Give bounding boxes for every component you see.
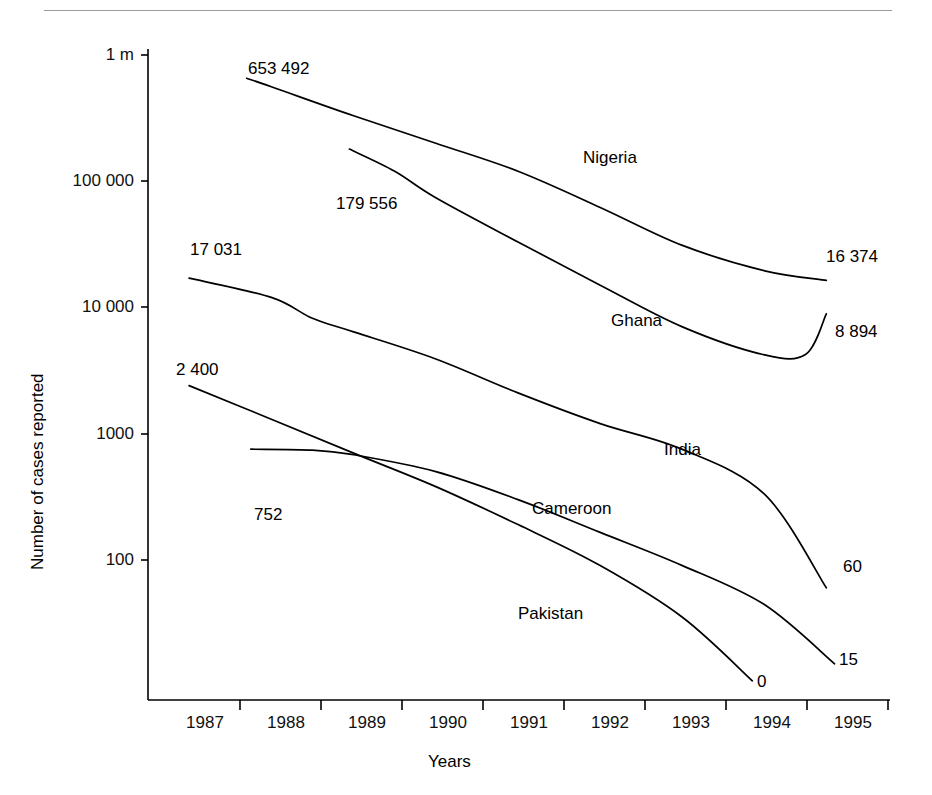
series-label-pakistan: Pakistan	[518, 604, 583, 624]
y-tick-label-10000: 10 000	[34, 297, 134, 316]
value-label-pakistan-start: 2 400	[176, 360, 219, 380]
value-label-pakistan-end: 0	[757, 672, 766, 692]
y-tick-label-100: 100	[34, 550, 134, 569]
series-line-pakistan	[189, 386, 752, 681]
y-tick-label-1000: 1000	[34, 424, 134, 443]
chart-page: 1 m 100 000 10 000 1000 100 Number of ca…	[0, 0, 932, 795]
x-tick-label-1992: 1992	[580, 713, 640, 732]
series-line-nigeria-path	[247, 78, 827, 280]
series-label-nigeria: Nigeria	[583, 148, 637, 168]
series-label-ghana: Ghana	[611, 311, 662, 331]
series-line-ghana	[349, 149, 826, 359]
value-label-cameroon-start: 752	[254, 505, 282, 525]
line-chart: 1 m 100 000 10 000 1000 100 Number of ca…	[0, 0, 932, 795]
value-label-india-end: 60	[843, 557, 862, 577]
y-tick-label-1m: 1 m	[54, 45, 134, 64]
x-tick-label-1988: 1988	[256, 713, 316, 732]
x-tick-label-1995: 1995	[823, 713, 883, 732]
y-tick-label-100000: 100 000	[34, 171, 134, 190]
value-label-nigeria-end: 16 374	[826, 247, 878, 267]
x-tick-label-1993: 1993	[661, 713, 721, 732]
series-line-cameroon	[251, 449, 835, 664]
x-tick-label-1994: 1994	[742, 713, 802, 732]
series-label-cameroon: Cameroon	[532, 499, 611, 519]
value-label-cameroon-end: 15	[839, 650, 858, 670]
y-axis-title: Number of cases reported	[28, 373, 48, 570]
chart-plot-svg	[0, 0, 932, 795]
x-tick-label-1990: 1990	[418, 713, 478, 732]
axes	[148, 49, 890, 700]
y-axis-ticks	[141, 55, 148, 560]
x-tick-label-1989: 1989	[337, 713, 397, 732]
value-label-ghana-start: 179 556	[336, 194, 397, 214]
x-tick-label-1987: 1987	[175, 713, 235, 732]
series-line-india	[189, 278, 826, 588]
series-label-india: India	[664, 440, 701, 460]
value-label-ghana-end: 8 894	[835, 322, 878, 342]
value-label-india-start: 17 031	[190, 240, 242, 260]
value-label-nigeria-start: 653 492	[248, 59, 309, 79]
x-tick-label-1991: 1991	[499, 713, 559, 732]
x-axis-ticks	[240, 700, 888, 710]
x-axis-title: Years	[428, 752, 471, 772]
